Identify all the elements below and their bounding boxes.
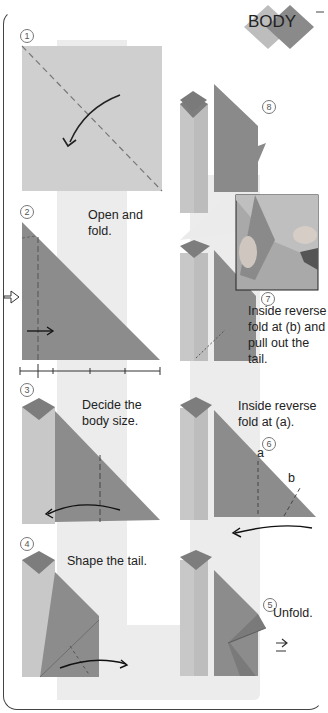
step-7-line-3: pull out the — [248, 335, 327, 351]
step-3-line-1: Decide the — [82, 397, 142, 413]
step-number-1: 1 — [20, 29, 34, 43]
step-4-instruction: Shape the tail. — [67, 553, 147, 569]
step-7-line-1: Inside reverse — [248, 303, 327, 319]
step-5-instruction: Unfold. — [273, 605, 313, 621]
step-7-line-4: tail. — [248, 351, 327, 367]
step-6-instruction: Inside reverse fold at (a). — [238, 398, 317, 430]
marker-b: b — [288, 470, 295, 486]
step-6-line-2: fold at (a). — [238, 414, 317, 430]
step-2-line-2: fold. — [88, 223, 143, 239]
step-3-instruction: Decide the body size. — [82, 397, 142, 429]
step-7-line-2: fold at (b) and — [248, 319, 327, 335]
section-title: BODY — [248, 12, 296, 32]
step-number-8: 8 — [262, 100, 276, 114]
step-number-4: 4 — [20, 537, 34, 551]
step-number-3: 3 — [20, 383, 34, 397]
step-number-6: 6 — [262, 437, 276, 451]
step-3-line-2: body size. — [82, 413, 142, 429]
step-6-line-1: Inside reverse — [238, 398, 317, 414]
marker-a: a — [257, 445, 264, 461]
step-2-line-1: Open and — [88, 207, 143, 223]
step-number-2: 2 — [20, 205, 34, 219]
step-2-instruction: Open and fold. — [88, 207, 143, 239]
step-7-instruction: Inside reverse fold at (b) and pull out … — [248, 303, 327, 367]
